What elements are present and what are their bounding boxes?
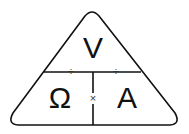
divide-right-symbol: ÷ (110, 66, 122, 77)
triangle-frame (0, 0, 189, 134)
divide-left-symbol: ÷ (65, 66, 77, 77)
resistance-label: Ω (45, 83, 75, 113)
multiply-symbol: × (87, 93, 99, 104)
triangle-outline (11, 12, 177, 125)
current-label: A (112, 83, 142, 113)
voltage-label: V (78, 33, 108, 63)
